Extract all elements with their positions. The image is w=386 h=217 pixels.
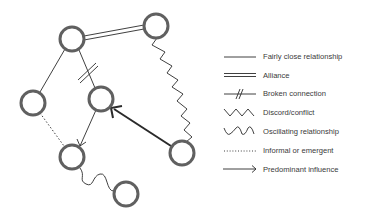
edge-predominant-f-d	[111, 106, 171, 146]
node-d	[89, 87, 113, 111]
edge-close-a-c	[40, 49, 65, 92]
edge-alliance-a-b	[84, 25, 144, 40]
node-b	[144, 14, 168, 38]
legend-label-predominant: Predominant influence	[263, 165, 339, 175]
node-c	[21, 91, 45, 115]
nodes	[21, 14, 194, 206]
relationship-diagram	[0, 0, 386, 217]
legend-label-broken: Broken connection	[263, 89, 326, 99]
legend-symbols	[223, 57, 256, 173]
edge-broken-a-d	[78, 50, 98, 88]
edge-oscillating-e-g	[80, 168, 114, 191]
legend-label-fairly-close: Fairly close relationship	[263, 52, 342, 62]
node-g	[114, 182, 138, 206]
legend-label-alliance: Alliance	[263, 71, 290, 81]
node-f	[170, 141, 194, 165]
edge-informal-c-e	[40, 113, 64, 146]
node-a	[60, 27, 84, 51]
edge-discord-b-f	[152, 38, 192, 142]
double-line-icon	[224, 74, 256, 77]
edge-influence-d-e	[77, 110, 96, 146]
legend-label-discord: Discord/conflict	[263, 108, 314, 118]
arrow-line-icon	[223, 166, 256, 173]
wave-line-icon	[224, 127, 254, 135]
legend-label-oscillating: Oscillating relationship	[263, 127, 339, 137]
legend-label-informal: Informal or emergent	[263, 146, 333, 156]
node-e	[60, 145, 84, 169]
broken-line-icon	[224, 89, 256, 99]
zigzag-line-icon	[224, 109, 254, 116]
